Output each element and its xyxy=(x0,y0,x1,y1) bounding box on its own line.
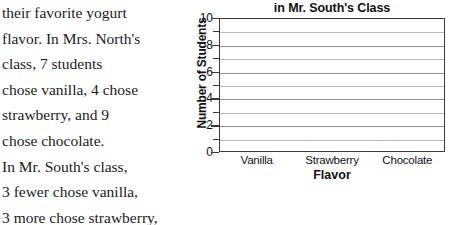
y-axis-tick-label: 8 xyxy=(187,38,213,52)
y-axis-minor-tick-mark xyxy=(213,58,219,59)
chart-title: in Mr. South's Class xyxy=(219,1,445,15)
x-axis-tick-label: Chocolate xyxy=(370,154,445,166)
problem-statement: their favorite yogurt flavor. In Mrs. No… xyxy=(0,0,200,225)
gridline xyxy=(220,46,444,47)
y-axis-tick-label: 4 xyxy=(187,91,213,105)
gridline xyxy=(220,73,444,74)
y-axis-tick-label: 10 xyxy=(187,11,213,25)
problem-line: flavor. In Mrs. North's xyxy=(0,26,200,52)
problem-line: chose vanilla, 4 chose xyxy=(0,77,200,103)
x-axis-tick-label: Strawberry xyxy=(294,154,369,166)
x-axis-tick-label: Vanilla xyxy=(219,154,294,166)
y-axis-tick-label: 2 xyxy=(187,118,213,132)
gridline xyxy=(220,140,444,141)
bar-chart: in Mr. South's Class Number of Students … xyxy=(185,0,453,190)
y-axis-tick-labels: 0246810 xyxy=(187,11,213,155)
gridline xyxy=(220,113,444,114)
y-axis-minor-tick-mark xyxy=(213,139,219,140)
worksheet-page: their favorite yogurt flavor. In Mrs. No… xyxy=(0,0,453,225)
gridline xyxy=(220,99,444,100)
y-axis-tick-mark xyxy=(211,18,219,19)
y-axis-tick-mark xyxy=(211,98,219,99)
problem-line: chose chocolate. xyxy=(0,128,200,154)
gridline xyxy=(220,126,444,127)
y-axis-tick-label: 0 xyxy=(187,145,213,159)
problem-line: 3 fewer chose vanilla, xyxy=(0,179,200,205)
y-axis-tick-mark xyxy=(211,72,219,73)
problem-line: 3 more chose strawberry, xyxy=(0,205,200,225)
problem-line: strawberry, and 9 xyxy=(0,102,200,128)
y-axis-tick-label: 6 xyxy=(187,65,213,79)
gridline xyxy=(220,32,444,33)
plot-area xyxy=(219,18,445,152)
gridline xyxy=(220,86,444,87)
problem-line: In Mr. South's class, xyxy=(0,154,200,180)
y-axis-minor-tick-mark xyxy=(213,112,219,113)
x-axis-tick-labels: VanillaStrawberryChocolate xyxy=(219,154,445,166)
y-axis-tick-mark xyxy=(211,125,219,126)
y-axis-tick-mark xyxy=(211,152,219,153)
y-axis-minor-tick-mark xyxy=(213,31,219,32)
x-axis-title: Flavor xyxy=(219,168,445,182)
gridline xyxy=(220,59,444,60)
problem-line: class, 7 students xyxy=(0,51,200,77)
problem-line: their favorite yogurt xyxy=(0,0,200,26)
y-axis-tick-mark xyxy=(211,45,219,46)
y-axis-minor-tick-mark xyxy=(213,85,219,86)
